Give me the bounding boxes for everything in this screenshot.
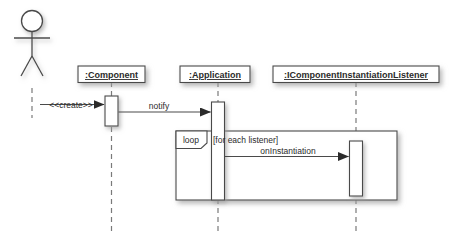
lifeline-label-application: :Application: [189, 70, 241, 80]
actor-figure: [14, 11, 50, 77]
lifeline-label-listener: :IComponentInstantiationListener: [284, 70, 428, 80]
lifeline-label-component: :Component: [85, 70, 138, 80]
message-label-oninstantiation: onInstantiation: [260, 146, 316, 156]
activation-application: [212, 102, 225, 200]
diagram-svg: :Component :Application :IComponentInsta…: [0, 0, 459, 236]
loop-fragment-guard-label: [for each listener]: [213, 135, 278, 145]
message-label-notify: notify: [149, 101, 170, 111]
loop-fragment-frame[interactable]: [176, 131, 397, 200]
loop-fragment-kind-label: loop: [183, 135, 199, 145]
sequence-diagram-canvas: :Component :Application :IComponentInsta…: [0, 0, 459, 236]
activation-listener: [350, 141, 363, 196]
message-label-create: <<create>>: [49, 100, 93, 110]
activation-component: [105, 96, 118, 126]
